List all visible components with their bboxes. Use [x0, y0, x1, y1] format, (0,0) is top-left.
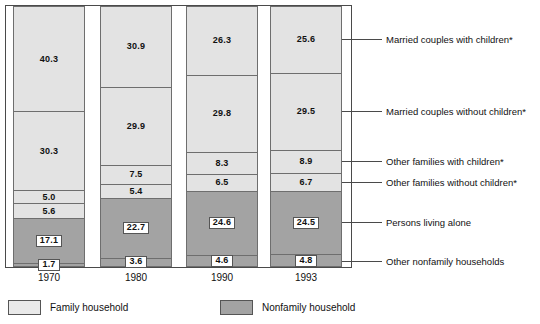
segment-value-label: 30.9	[127, 42, 145, 51]
callout-leader-inner	[342, 111, 352, 112]
legend-item-nonfamily: Nonfamily household	[220, 300, 355, 315]
segment-value-label: 17.1	[36, 235, 62, 247]
bar-1970[interactable]: 40.330.35.05.617.11.7	[13, 6, 85, 267]
bar-segment[interactable]: 30.3	[13, 111, 85, 190]
x-tick-1970: 1970	[13, 272, 85, 283]
callout-leader-outer	[352, 222, 382, 223]
bar-segment[interactable]: 7.5	[100, 165, 172, 185]
legend-label-nonfamily: Nonfamily household	[262, 302, 355, 313]
bar-segment[interactable]: 24.6	[186, 191, 258, 255]
bar-segment[interactable]: 4.8	[270, 254, 342, 267]
bar-segment[interactable]: 29.9	[100, 87, 172, 165]
bar-segment[interactable]: 1.7	[13, 263, 85, 267]
legend-label-family: Family household	[50, 302, 128, 313]
segment-value-label: 4.8	[295, 255, 316, 267]
callout-leader-outer	[352, 182, 382, 183]
bar-segment[interactable]: 26.3	[186, 6, 258, 75]
segment-value-label: 5.6	[42, 207, 55, 216]
bar-segment[interactable]: 30.9	[100, 6, 172, 87]
callout-leader-inner	[342, 261, 352, 262]
segment-value-label: 4.6	[211, 255, 232, 267]
segment-value-label: 22.7	[123, 222, 149, 234]
bar-segment[interactable]: 22.7	[100, 198, 172, 257]
segment-value-label: 26.3	[213, 36, 231, 45]
segment-value-label: 25.6	[297, 35, 315, 44]
bar-segment[interactable]: 25.6	[270, 6, 342, 73]
chart-legend: Family household Nonfamily household	[8, 300, 408, 320]
segment-value-label: 30.3	[40, 147, 58, 156]
callout-label: Persons living alone	[386, 217, 471, 228]
callout-leader-outer	[352, 111, 382, 112]
segment-value-label: 40.3	[40, 55, 58, 64]
callout-leader-outer	[352, 39, 382, 40]
segment-value-label: 3.6	[125, 256, 146, 268]
segment-value-label: 5.4	[129, 187, 142, 196]
bar-segment[interactable]: 29.5	[270, 73, 342, 150]
callout-label: Married couples without children*	[386, 106, 526, 117]
segment-value-label: 6.7	[299, 178, 312, 187]
callout-leader-outer	[352, 261, 382, 262]
chart-canvas: 40.330.35.05.617.11.730.929.97.55.422.73…	[0, 0, 540, 324]
segment-value-label: 24.6	[209, 217, 235, 229]
segment-value-label: 6.5	[215, 178, 228, 187]
bar-1993[interactable]: 25.629.58.96.724.54.8	[270, 6, 342, 267]
callout-label: Other families without children*	[386, 177, 517, 188]
bar-segment[interactable]: 6.7	[270, 173, 342, 190]
bar-segment[interactable]: 24.5	[270, 191, 342, 255]
segment-value-label: 8.9	[299, 157, 312, 166]
segment-value-label: 29.9	[127, 122, 145, 131]
bar-segment[interactable]: 5.0	[13, 190, 85, 203]
bar-segment[interactable]: 4.6	[186, 255, 258, 267]
segment-value-label: 8.3	[215, 159, 228, 168]
legend-item-family: Family household	[8, 300, 128, 315]
bar-segment[interactable]: 6.5	[186, 174, 258, 191]
segment-value-label: 24.5	[293, 217, 319, 229]
legend-swatch-nonfamily	[220, 300, 253, 315]
segment-value-label: 1.7	[38, 259, 59, 271]
callout-label: Other nonfamily households	[386, 256, 504, 267]
bar-segment[interactable]: 8.9	[270, 150, 342, 173]
callout-label: Married couples with children*	[386, 34, 513, 45]
bar-segment[interactable]: 40.3	[13, 6, 85, 111]
bar-segment[interactable]: 5.6	[13, 203, 85, 218]
bar-segment[interactable]: 17.1	[13, 218, 85, 263]
callout-leader-inner	[342, 161, 352, 162]
bar-1980[interactable]: 30.929.97.55.422.73.6	[100, 6, 172, 267]
bar-1990[interactable]: 26.329.88.36.524.64.6	[186, 6, 258, 267]
x-tick-1990: 1990	[186, 272, 258, 283]
callout-leader-inner	[342, 39, 352, 40]
callout-leader-inner	[342, 182, 352, 183]
bar-segment[interactable]: 3.6	[100, 258, 172, 267]
callout-leader-inner	[342, 222, 352, 223]
segment-value-label: 29.5	[297, 107, 315, 116]
x-tick-1980: 1980	[100, 272, 172, 283]
callout-leader-outer	[352, 161, 382, 162]
legend-swatch-family	[8, 300, 41, 315]
segment-value-label: 7.5	[129, 170, 142, 179]
segment-value-label: 29.8	[213, 109, 231, 118]
bar-segment[interactable]: 5.4	[100, 184, 172, 198]
x-tick-1993: 1993	[270, 272, 342, 283]
bar-segment[interactable]: 29.8	[186, 75, 258, 153]
segment-value-label: 5.0	[42, 193, 55, 202]
bar-segment[interactable]: 8.3	[186, 152, 258, 174]
callout-label: Other families with children*	[386, 156, 504, 167]
